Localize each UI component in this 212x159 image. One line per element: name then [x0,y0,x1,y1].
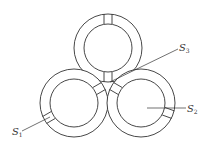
label-s3: S3 [179,43,190,54]
label-s2: S2 [187,104,198,115]
label-s1: S1 [12,127,23,138]
three-ring-diagram [0,0,212,159]
s1-leader-line [22,117,50,131]
